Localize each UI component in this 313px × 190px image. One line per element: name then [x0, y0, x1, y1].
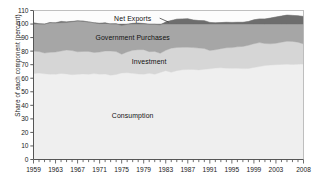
- y-tick-label-100: 100: [8, 20, 29, 27]
- series-label-net-exports: Net Exports: [114, 15, 151, 22]
- y-tick-label-80: 80: [8, 48, 29, 55]
- y-tick-label-60: 60: [8, 75, 29, 82]
- stacked-area-chart: Share of each component (percent) 010203…: [0, 0, 312, 190]
- series-label-government-purchases: Government Purchases: [95, 34, 169, 41]
- plot-area: [0, 0, 312, 190]
- series-label-consumption: Consumption: [112, 112, 154, 119]
- area-consumption: [34, 64, 304, 160]
- y-tick-label-70: 70: [8, 61, 29, 68]
- x-tick-label-2003: 2003: [261, 166, 291, 173]
- y-tick-label-50: 50: [8, 88, 29, 95]
- y-tick-label-90: 90: [8, 34, 29, 41]
- y-tick-label-40: 40: [8, 102, 29, 109]
- y-tick-label-20: 20: [8, 129, 29, 136]
- y-tick-label-0: 0: [8, 156, 29, 163]
- y-tick-label-110: 110: [8, 7, 29, 14]
- y-tick-label-30: 30: [8, 115, 29, 122]
- x-tick-label-2008: 2008: [289, 166, 313, 173]
- series-label-investment: Investment: [132, 58, 167, 65]
- y-tick-label-10: 10: [8, 142, 29, 149]
